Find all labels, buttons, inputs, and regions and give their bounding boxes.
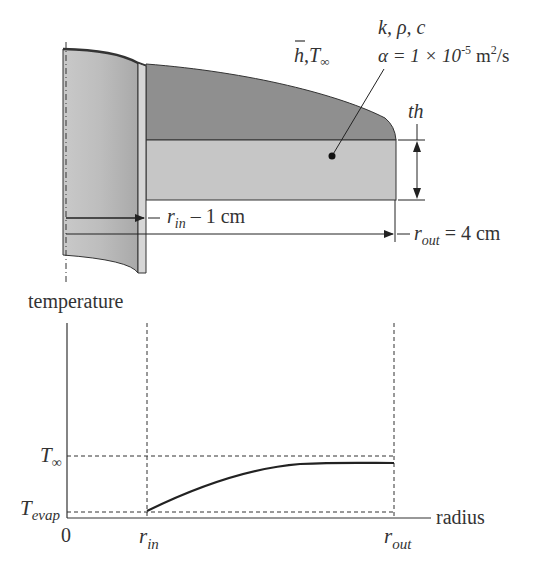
y-axis-label: temperature	[28, 290, 124, 313]
fin-top-surface	[146, 64, 396, 140]
figure-canvas: h,T∞ k, ρ, c α = 1 × 10-5 m2/s th rin – …	[0, 0, 551, 569]
th-arrow-up-icon	[413, 141, 421, 152]
t-evap-label: Tevap	[20, 496, 61, 523]
r-out-label: rout = 4 cm	[414, 222, 501, 248]
t-inf-label: T∞	[40, 443, 62, 470]
tube-body	[63, 49, 138, 273]
temperature-plot: temperature radius 0 T∞ Tevap rin rout	[20, 290, 485, 552]
alpha-label: α = 1 × 10-5 m2/s	[378, 43, 509, 66]
properties-label: k, ρ, c	[378, 16, 425, 39]
material-point	[329, 153, 336, 160]
th-arrow-down-icon	[413, 188, 421, 199]
r-in-tick-label: rin	[139, 524, 159, 552]
origin-label: 0	[61, 524, 71, 546]
fin-side-face	[146, 140, 396, 200]
thickness-label: th	[408, 100, 424, 122]
convection-label: h,T∞	[294, 44, 329, 69]
tube-wall	[138, 63, 146, 273]
temperature-curve	[147, 463, 394, 511]
fin-diagram: h,T∞ k, ρ, c α = 1 × 10-5 m2/s th rin – …	[63, 16, 509, 283]
r-in-label: rin – 1 cm	[167, 205, 246, 231]
r-out-tick-label: rout	[384, 524, 412, 552]
x-axis-label: radius	[436, 506, 485, 528]
